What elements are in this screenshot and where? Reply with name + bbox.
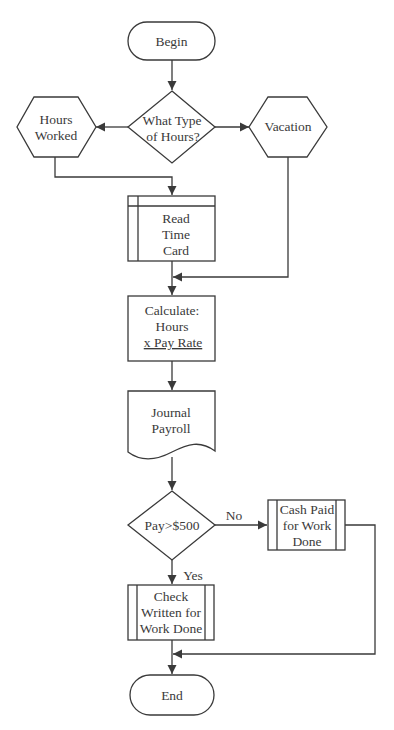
node-label-line-2: Payroll (152, 421, 191, 436)
edge-label-yes: Yes (183, 568, 203, 583)
node-label-line-2: for Work (283, 518, 332, 533)
node-hours-worked: Hours Worked (17, 97, 96, 157)
node-label-line-3: x Pay Rate (144, 335, 203, 350)
node-begin: Begin (128, 22, 215, 60)
flowchart-canvas: Begin What Type of Hours? Hours Worked V… (0, 0, 394, 730)
node-label-line-2: Time (162, 227, 190, 242)
node-check-written: Check Written for Work Done (128, 585, 214, 640)
node-cash-paid: Cash Paid for Work Done (268, 500, 345, 550)
flowchart-diagram: Begin What Type of Hours? Hours Worked V… (0, 0, 394, 730)
node-label-line-2: Hours (156, 319, 189, 334)
node-label-line-1: Check (154, 589, 189, 604)
node-label-line-1: Read (162, 211, 190, 226)
node-label-line-3: Work Done (140, 621, 202, 636)
node-label-line-1: Calculate: (145, 303, 200, 318)
node-label-line-3: Card (163, 243, 189, 258)
node-label-line-1: Cash Paid (280, 502, 335, 517)
hexagon-shape (17, 97, 96, 157)
edge-label-no: No (226, 508, 243, 523)
node-pay-decision: Pay>$500 (128, 491, 215, 560)
node-label: Begin (155, 34, 187, 49)
node-label-line-3: Done (292, 534, 321, 549)
node-label-line-1: Hours (40, 112, 73, 127)
node-label: Pay>$500 (145, 518, 200, 533)
node-calculate: Calculate: Hours x Pay Rate (128, 296, 215, 361)
node-label-line-2: Written for (141, 605, 201, 620)
node-label-line-2: of Hours? (146, 129, 200, 144)
node-label: End (161, 688, 183, 703)
node-label-line-1: Journal (151, 405, 191, 420)
node-hours-type-decision: What Type of Hours? (128, 91, 215, 163)
connectors (55, 60, 375, 674)
node-read-time-card: Read Time Card (128, 196, 215, 261)
node-label: Vacation (264, 119, 311, 134)
node-end: End (130, 675, 214, 715)
node-journal-payroll: Journal Payroll (128, 391, 215, 459)
edge-hours-worked-to-read-time-card (55, 157, 172, 195)
node-vacation: Vacation (249, 97, 327, 157)
node-label-line-2: Worked (35, 128, 78, 143)
node-label-line-1: What Type (142, 113, 201, 128)
